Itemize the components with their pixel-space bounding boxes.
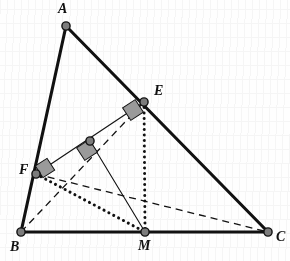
vertex-dot-n — [86, 137, 94, 145]
segments-layer — [21, 26, 268, 232]
point-label-e: E — [154, 84, 163, 98]
vertex-dot-f — [32, 170, 40, 178]
point-label-b: B — [10, 240, 19, 254]
side-ac — [66, 26, 268, 232]
segment-em — [144, 102, 145, 232]
vertex-dot-e — [140, 98, 148, 106]
vertex-dot-m — [141, 228, 149, 236]
side-ab — [21, 26, 66, 232]
segment-fc — [36, 174, 268, 232]
point-label-m: M — [138, 239, 150, 253]
vertex-dot-a — [62, 22, 70, 30]
segment-fm — [36, 174, 145, 232]
geometry-figure: ABCEFM — [0, 0, 290, 261]
point-label-a: A — [58, 2, 67, 16]
point-label-f: F — [19, 163, 28, 177]
vertex-dot-c — [264, 228, 272, 236]
vertex-dot-b — [17, 228, 25, 236]
point-label-c: C — [276, 230, 285, 244]
figure-canvas — [0, 0, 290, 261]
